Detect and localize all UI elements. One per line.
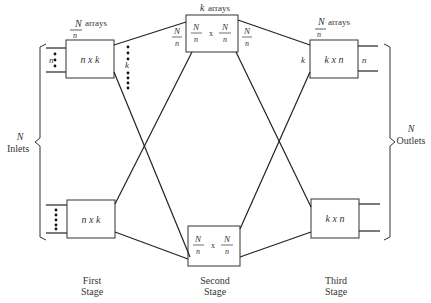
third-stage-caption-line2: Stage <box>325 286 348 297</box>
outlets-label: Outlets <box>397 135 426 146</box>
svg-text:N: N <box>223 234 231 244</box>
outputs-per-switch-label: n <box>362 55 367 65</box>
svg-text:n: n <box>317 30 321 39</box>
svg-text:N: N <box>74 18 83 29</box>
svg-text:N: N <box>221 22 229 32</box>
svg-text:N: N <box>194 234 202 244</box>
second-stage-input-label: N n <box>172 26 182 48</box>
first-stage-switch-bottom: n x k <box>46 200 115 238</box>
first-stage-switch-top: n n x k <box>46 40 114 78</box>
second-stage-caption-line2: Stage <box>204 286 227 297</box>
first-stage-caption-line2: Stage <box>81 286 104 297</box>
interconnect-links <box>114 20 311 259</box>
second-stage-switch-top: N n x N n <box>186 15 238 52</box>
stage-captions: First Stage Second Stage Third Stage <box>81 275 348 297</box>
svg-text:n: n <box>196 247 200 256</box>
svg-text:N: N <box>317 16 326 27</box>
svg-text:x: x <box>211 241 215 250</box>
inputs-per-switch-label: k <box>301 55 306 65</box>
inlets-label: Inlets <box>7 143 29 154</box>
svg-text:n: n <box>175 39 179 48</box>
first-stage-array-count: N n arrays <box>70 18 107 40</box>
svg-text:n: n <box>245 39 249 48</box>
second-stage-output-label: N n <box>242 26 252 48</box>
switch-size-label: n x k <box>82 214 101 225</box>
second-stage-array-count: k arrays <box>200 2 230 13</box>
third-stage-caption-line1: Third <box>325 275 347 286</box>
second-stage-caption-line1: Second <box>200 275 229 286</box>
third-stage: N n arrays k k x n n k x n <box>301 16 380 238</box>
svg-text:n: n <box>73 31 77 40</box>
svg-text:x: x <box>209 29 213 38</box>
outlets-count: N <box>407 123 416 134</box>
switch-size-label: k x n <box>325 54 344 65</box>
switch-size-label: n x k <box>81 54 100 65</box>
first-stage-outputs-ellipsis: k <box>125 46 130 90</box>
svg-text:N: N <box>173 26 181 36</box>
inlets-bracket: N Inlets <box>7 44 46 240</box>
svg-text:arrays: arrays <box>208 3 230 13</box>
outputs-per-switch-label: k <box>125 60 130 70</box>
third-stage-switch-top: k k x n n <box>301 40 378 78</box>
svg-text:n: n <box>223 35 227 44</box>
third-stage-array-count: N n arrays <box>315 16 350 39</box>
outlets-bracket: N Outlets <box>384 44 426 240</box>
inputs-per-switch-label: n <box>49 55 54 65</box>
svg-text:n: n <box>194 35 198 44</box>
svg-text:N: N <box>192 22 200 32</box>
third-stage-switch-bottom: k x n <box>311 199 380 238</box>
first-stage-caption-line1: First <box>83 275 102 286</box>
second-stage-switch-bottom: N n x N n <box>188 226 240 266</box>
svg-text:arrays: arrays <box>85 18 107 28</box>
svg-text:k: k <box>200 2 205 13</box>
svg-text:N: N <box>243 26 251 36</box>
svg-text:n: n <box>225 247 229 256</box>
switch-size-label: k x n <box>326 213 345 224</box>
first-stage: N n arrays n n x k k <box>46 18 130 238</box>
second-stage: k arrays N n x N n N n N n N <box>172 2 252 266</box>
inlets-count: N <box>16 131 25 142</box>
svg-text:arrays: arrays <box>328 17 350 27</box>
three-stage-switch-diagram: N Inlets N Outlets N n arrays n n x k <box>0 0 431 303</box>
